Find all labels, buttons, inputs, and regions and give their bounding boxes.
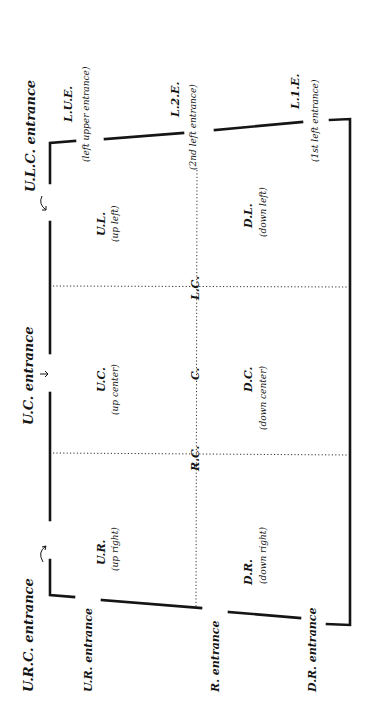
- point-rc: R.C.: [190, 446, 201, 471]
- left-wing-3-corner: [327, 119, 350, 625]
- right-wing-1: [102, 600, 201, 608]
- back-wall-left-corner: [50, 141, 75, 183]
- ulc-entrance-label: U.L.C. entrance: [24, 80, 37, 192]
- l2e-full: (2nd left entrance): [189, 84, 198, 170]
- urc-entrance-label: U.R.C. entrance: [22, 578, 35, 692]
- ulc-arrow-icon: [41, 196, 46, 210]
- ur-entrance-label: U.R. entrance: [83, 608, 94, 692]
- right-wing-2: [229, 612, 300, 618]
- l1e-full: (1st left entrance): [311, 80, 320, 162]
- area-dr-full: (down right): [259, 527, 268, 584]
- area-ur-abbr: U.R.: [96, 540, 107, 565]
- l2e-abbr: L.2.E.: [170, 82, 181, 117]
- area-dr-abbr: D.R.: [243, 559, 254, 585]
- area-ul-full: (up left): [111, 205, 120, 242]
- area-ul-abbr: U.L.: [96, 212, 107, 236]
- area-dc-full: (down center): [259, 366, 268, 430]
- center-line: [196, 170, 197, 606]
- uc-entrance-label: U.C. entrance: [22, 327, 35, 425]
- area-uc-abbr: U.C.: [96, 367, 107, 392]
- dr-entrance-label: D.R. entrance: [307, 608, 318, 692]
- left-wing-1: [105, 133, 183, 139]
- uc-arrow-icon: [40, 371, 48, 377]
- area-dl-abbr: D.L.: [243, 203, 254, 228]
- area-ur-full: (up right): [111, 527, 120, 571]
- left-wing-2: [215, 122, 302, 130]
- back-wall-right-corner: [50, 560, 74, 597]
- lue-abbr: L.U.E.: [63, 86, 74, 122]
- l1e-abbr: L.1.E.: [290, 74, 301, 109]
- area-uc-full: (up center): [111, 364, 120, 415]
- r-entrance-label: R. entrance: [210, 621, 221, 693]
- urc-arrow-icon: [41, 546, 46, 562]
- area-dc-abbr: D.C.: [243, 367, 254, 392]
- point-c: C.: [190, 368, 201, 380]
- lue-full: (left upper entrance): [82, 67, 91, 162]
- point-lc: L.C.: [190, 276, 201, 300]
- area-dl-full: (down left): [259, 187, 268, 237]
